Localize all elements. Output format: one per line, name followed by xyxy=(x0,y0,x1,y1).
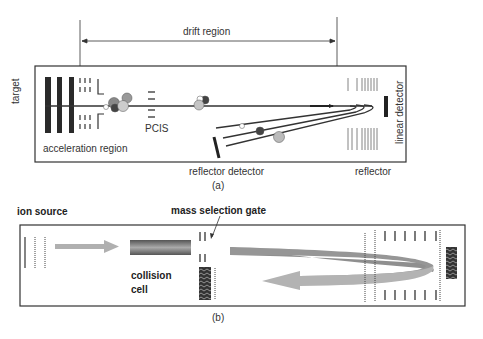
panel-a xyxy=(35,17,406,162)
detector-b xyxy=(199,267,211,300)
reflector-label: reflector xyxy=(355,166,391,177)
reflectron-beam-arrow xyxy=(230,247,434,290)
panel-b xyxy=(20,216,465,306)
beam-arrow xyxy=(55,240,119,253)
reflector-detector xyxy=(214,137,219,158)
ion-cluster-1 xyxy=(104,93,133,112)
mass-selection-gate xyxy=(200,232,205,262)
caption-a: (a) xyxy=(212,180,224,191)
collision-cell-label-1: collision xyxy=(131,270,172,281)
pcis-label: PCIS xyxy=(145,123,168,134)
drift-region-dimension xyxy=(80,17,337,66)
linear-detector xyxy=(384,96,388,117)
target-plates xyxy=(45,77,74,133)
drift-region-label: drift region xyxy=(183,26,230,37)
collision-cell xyxy=(130,240,191,255)
ion-source-label: ion source xyxy=(17,206,68,217)
acceleration-region-label: acceleration region xyxy=(43,143,128,154)
caption-b: (b) xyxy=(212,312,224,323)
pcis-gate xyxy=(148,92,155,117)
ion-cluster-2 xyxy=(194,96,209,110)
mass-selection-gate-label: mass selection gate xyxy=(171,205,266,216)
linear-detector-label: linear detector xyxy=(394,81,405,144)
ion-source xyxy=(25,237,45,268)
gate-pointer-arrow xyxy=(210,216,220,239)
reflector-detector-label: reflector detector xyxy=(189,166,264,177)
target-label: target xyxy=(10,78,21,104)
end-detector xyxy=(446,247,457,279)
extraction-grids xyxy=(80,78,104,129)
collision-cell-label-2: cell xyxy=(131,284,148,295)
